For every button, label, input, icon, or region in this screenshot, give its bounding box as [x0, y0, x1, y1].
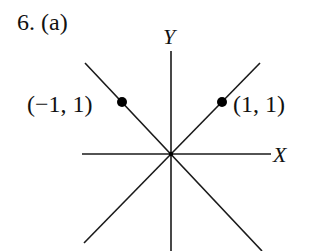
problem-number-label: 6. (a): [17, 9, 68, 35]
origin-point: [169, 152, 173, 156]
point-one-one: [217, 97, 227, 107]
coordinate-diagram: 6. (a) Y X (−1, 1) (1, 1): [0, 0, 311, 251]
point-label-one-one: (1, 1): [233, 91, 285, 117]
x-axis-label: X: [272, 142, 288, 167]
point-label-negative-one-one: (−1, 1): [27, 91, 93, 117]
point-negative-one-one: [117, 97, 127, 107]
y-axis-label: Y: [163, 24, 178, 49]
